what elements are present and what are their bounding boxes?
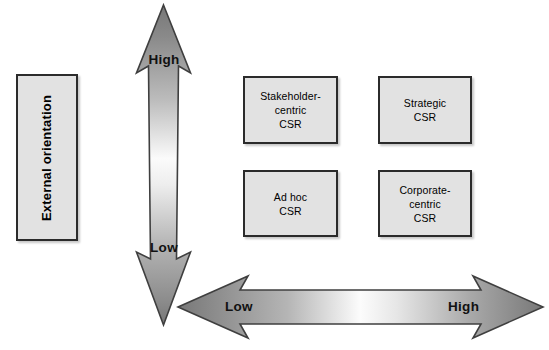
quadrant-box-strategic: Strategic CSR <box>378 76 472 144</box>
csr-orientation-diagram: External orientation High Low <box>0 0 549 350</box>
horizontal-arrow-label-high: High <box>448 299 479 314</box>
axis-box-external-orientation: External orientation <box>16 74 78 241</box>
axis-box-label: External orientation <box>40 94 54 220</box>
horizontal-arrow-label-low: Low <box>225 299 253 314</box>
quadrant-label-strategic: Strategic CSR <box>404 96 446 124</box>
quadrant-label-stakeholder-centric: Stakeholder- centric CSR <box>260 89 321 131</box>
quadrant-box-ad-hoc: Ad hoc CSR <box>243 170 338 237</box>
quadrant-label-ad-hoc: Ad hoc CSR <box>274 190 307 218</box>
quadrant-box-corporate-centric: Corporate- centric CSR <box>378 170 472 237</box>
quadrant-label-corporate-centric: Corporate- centric CSR <box>399 183 450 225</box>
vertical-arrow-label-high: High <box>120 52 208 67</box>
vertical-arrow-label-low: Low <box>120 240 208 255</box>
quadrant-box-stakeholder-centric: Stakeholder- centric CSR <box>243 76 338 144</box>
